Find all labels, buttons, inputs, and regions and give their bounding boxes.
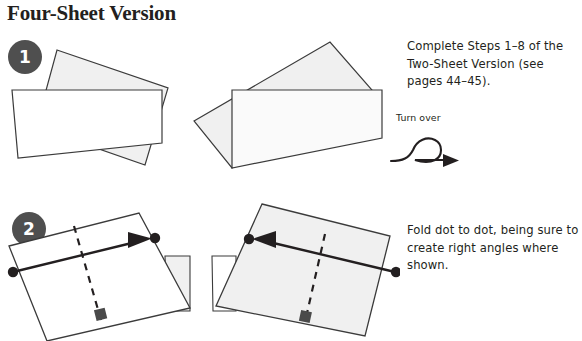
arrowhead [443, 154, 459, 167]
turn-over-loop-arrow-icon [389, 124, 469, 172]
step-2-figure-right [212, 204, 400, 336]
main-sheet [9, 213, 190, 341]
step-2-figure-left [0, 196, 190, 341]
step-1-instruction-text: Complete Steps 1–8 of the Two-Sheet Vers… [407, 38, 577, 91]
start-dot [391, 267, 400, 277]
turn-over-label: Turn over [396, 112, 441, 123]
step-2-figure-group [0, 196, 400, 341]
end-dot [244, 234, 254, 244]
loop-path [391, 138, 447, 161]
page-title: Four-Sheet Version [7, 1, 176, 26]
instruction-page: Four-Sheet Version 1 Complete Steps 1–8 … [0, 0, 582, 341]
end-dot [150, 233, 160, 243]
white-sheet-front [232, 90, 382, 168]
step-1-figure-left [12, 50, 168, 165]
step-1-figure-group [0, 28, 390, 193]
start-dot [8, 267, 18, 277]
step-2-instruction-text: Fold dot to dot, being sure to create ri… [407, 222, 582, 275]
step-1-figure-right [194, 42, 382, 168]
right-angle-marker [299, 310, 312, 323]
